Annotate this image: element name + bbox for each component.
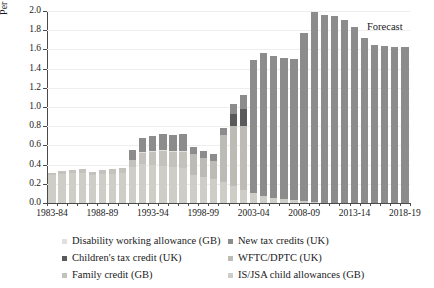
y-tick-label: 0.2 <box>29 179 41 189</box>
bar-group[interactable] <box>371 45 378 203</box>
bar-segment <box>220 135 227 182</box>
bar-group[interactable] <box>179 134 186 203</box>
bar-group[interactable] <box>311 12 318 203</box>
bar-group[interactable] <box>361 38 368 203</box>
x-tick-mark <box>380 203 381 206</box>
bar-group[interactable] <box>341 20 348 203</box>
bar-segment <box>331 16 338 203</box>
bar-segment <box>240 109 247 126</box>
x-tick-mark <box>198 203 199 206</box>
y-tick-mark <box>43 30 47 31</box>
bar-group[interactable] <box>290 59 297 203</box>
legend-childrens-tax-credit[interactable]: Children's tax credit (UK) <box>62 253 228 264</box>
legend-wftc-dptc[interactable]: WFTC/DPTC (UK) <box>228 253 402 264</box>
bar-group[interactable] <box>300 33 307 203</box>
bar-segment <box>240 95 247 109</box>
bar-group[interactable] <box>260 53 267 203</box>
y-tick-label: 1.4 <box>29 64 41 74</box>
bar-group[interactable] <box>149 136 156 203</box>
forecast-annotation: Forecast <box>367 21 403 32</box>
bar-group[interactable] <box>321 15 328 203</box>
x-tick-mark <box>400 203 401 206</box>
x-tick-mark <box>148 203 149 206</box>
bar-group[interactable] <box>270 56 277 203</box>
legend-swatch-icon <box>62 273 67 278</box>
x-tick-mark <box>128 203 129 206</box>
y-tick-label: 0.0 <box>29 198 41 208</box>
bar-group[interactable] <box>381 46 388 203</box>
bar-group[interactable] <box>129 150 136 203</box>
bar-group[interactable] <box>139 138 146 203</box>
bar-group[interactable] <box>230 104 237 203</box>
bar-segment <box>230 104 237 114</box>
bar-group[interactable] <box>69 170 76 203</box>
bar-group[interactable] <box>331 16 338 203</box>
bar-group[interactable] <box>220 128 227 203</box>
bar-group[interactable] <box>210 154 217 203</box>
bar-group[interactable] <box>169 135 176 203</box>
bar-segment <box>391 47 398 203</box>
bar-group[interactable] <box>240 95 247 203</box>
x-tick-mark <box>229 203 230 206</box>
bar-segment <box>159 134 166 150</box>
bar-group[interactable] <box>89 172 96 203</box>
bar-group[interactable] <box>250 60 257 203</box>
x-tick-mark <box>168 203 169 206</box>
bar-segment <box>401 47 408 203</box>
x-tick-mark <box>289 203 290 206</box>
bar-group[interactable] <box>351 27 358 203</box>
bar-group[interactable] <box>159 134 166 203</box>
bar-group[interactable] <box>200 151 207 203</box>
y-tick-label: 1.6 <box>29 45 41 55</box>
legend-label: Children's tax credit (UK) <box>72 253 182 264</box>
x-tick-mark <box>67 203 68 206</box>
bar-group[interactable] <box>119 168 126 203</box>
bar-group[interactable] <box>58 171 65 203</box>
legend-swatch-icon <box>228 239 233 244</box>
bar-segment <box>290 59 297 200</box>
y-tick-label: 1.0 <box>29 102 41 112</box>
bar-group[interactable] <box>391 47 398 203</box>
x-tick-label: 1983-84 <box>36 209 68 219</box>
legend-label: New tax credits (UK) <box>238 236 329 247</box>
x-tick-mark <box>259 203 260 206</box>
x-tick-label: 2018-19 <box>389 209 421 219</box>
bar-segment <box>300 33 307 201</box>
bar-segment <box>139 164 146 203</box>
legend-new-tax-credits[interactable]: New tax credits (UK) <box>228 236 402 247</box>
x-tick-mark <box>239 203 240 206</box>
bar-group[interactable] <box>99 170 106 203</box>
y-tick-label: 2.0 <box>29 6 41 16</box>
bar-group[interactable] <box>280 58 287 203</box>
x-tick-mark <box>350 203 351 206</box>
bar-group[interactable] <box>48 173 55 203</box>
bar-segment <box>270 56 277 198</box>
bar-segment <box>169 167 176 203</box>
plot-area: 0.00.20.40.60.81.01.21.41.61.82.0 1983-8… <box>47 11 410 203</box>
y-tick-mark <box>43 88 47 89</box>
bar-group[interactable] <box>79 169 86 203</box>
bar-segment <box>139 138 146 152</box>
bar-segment <box>210 161 217 179</box>
bar-segment <box>179 134 186 151</box>
bar-segment <box>200 177 207 203</box>
legend-disability-working-allowance[interactable]: Disability working allowance (GB) <box>62 236 228 247</box>
bar-group[interactable] <box>401 47 408 203</box>
legend-swatch-icon <box>62 239 67 244</box>
x-tick-mark <box>118 203 119 206</box>
bar-group[interactable] <box>109 169 116 203</box>
y-tick-label: 1.2 <box>29 83 41 93</box>
bar-segment <box>129 160 136 167</box>
legend-family-credit[interactable]: Family credit (GB) <box>62 270 228 281</box>
x-tick-mark <box>218 203 219 206</box>
bar-segment <box>149 152 156 164</box>
legend-label: Disability working allowance (GB) <box>72 236 220 247</box>
y-tick-mark <box>43 184 47 185</box>
bar-group[interactable] <box>190 147 197 203</box>
legend-is-jsa-child-allowances[interactable]: IS/JSA child allowances (GB) <box>228 270 402 281</box>
x-tick-mark <box>57 203 58 206</box>
bar-segment <box>260 196 267 203</box>
bar-segment <box>230 126 237 186</box>
y-tick-label: 0.4 <box>29 160 41 170</box>
bar-segment <box>200 158 207 177</box>
